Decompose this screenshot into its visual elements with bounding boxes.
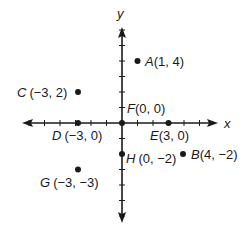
point-c: C(−3, 2) xyxy=(17,85,81,100)
point-f-label: F(0, 0) xyxy=(127,101,165,116)
point-b-label: B(4, −2) xyxy=(191,147,238,162)
point-g-dot-icon xyxy=(75,167,81,173)
coordinate-plane-svg: x y A( xyxy=(0,0,249,236)
point-a-dot-icon xyxy=(135,58,141,64)
point-g-label: G(−3, −3) xyxy=(40,175,99,190)
point-a-label: A(1, 4) xyxy=(144,54,184,69)
point-h-label: H(0, −2) xyxy=(126,151,176,166)
point-e-label: E(3, 0) xyxy=(150,128,189,143)
point-c-label: C(−3, 2) xyxy=(17,85,67,100)
point-h-dot-icon xyxy=(119,151,125,157)
x-axis-label: x xyxy=(223,116,231,131)
point-d-dot-icon xyxy=(75,120,81,126)
point-g: G(−3, −3) xyxy=(40,167,99,191)
point-b-dot-icon xyxy=(180,151,186,157)
y-axis: y xyxy=(116,6,126,223)
point-f-dot-icon xyxy=(119,120,125,126)
y-axis-label: y xyxy=(116,6,125,21)
coordinate-plane: x y A( xyxy=(0,0,249,236)
point-c-dot-icon xyxy=(75,89,81,95)
point-e-dot-icon xyxy=(166,120,172,126)
point-h: H(0, −2) xyxy=(119,151,176,166)
point-a: A(1, 4) xyxy=(135,54,185,69)
point-d-label: D(−3, 0) xyxy=(52,128,102,143)
point-b: B(4, −2) xyxy=(180,147,238,162)
